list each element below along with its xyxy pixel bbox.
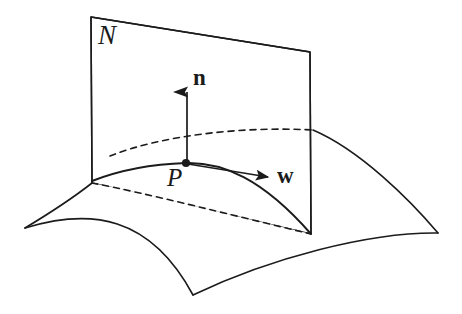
plane-label-N: N: [98, 22, 116, 49]
geometry-figure: N P n w: [0, 0, 462, 314]
plane-right-edge: [310, 52, 311, 234]
point-P-marker: [182, 159, 190, 167]
tangent-vector-label-w: w: [277, 164, 294, 187]
figure-canvas: [0, 0, 462, 314]
point-label-P: P: [167, 165, 182, 190]
plane-left-edge: [91, 17, 92, 183]
normal-vector-label-n: n: [193, 66, 206, 89]
plane-top-edge: [91, 17, 310, 52]
